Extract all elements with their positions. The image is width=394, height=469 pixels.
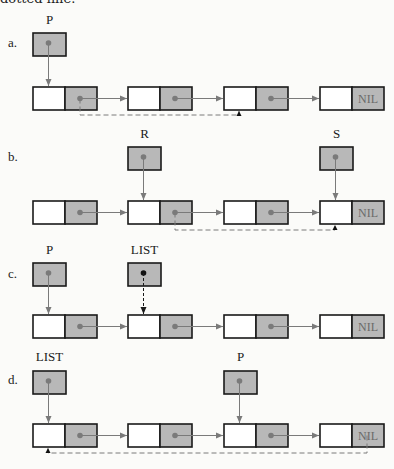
list-node [128, 424, 223, 447]
data-field [224, 315, 256, 338]
pointer-label: P [237, 349, 244, 364]
pointer-p: P [33, 242, 66, 314]
diagram-a: a.NILP [8, 12, 384, 116]
row-label: c. [8, 266, 17, 281]
pointer-label: S [333, 126, 340, 141]
list-node [33, 315, 127, 338]
pointer-label: LIST [36, 349, 64, 364]
data-field [320, 87, 352, 110]
row-label: b. [8, 149, 18, 164]
data-field [33, 424, 65, 447]
row-label: d. [8, 372, 18, 387]
data-field [128, 87, 160, 110]
diagram-c: c.NILPLIST [8, 242, 384, 338]
pointer-p: P [33, 12, 66, 86]
data-field [33, 315, 65, 338]
data-field [128, 315, 160, 338]
dashed-link-arrowhead [237, 111, 242, 116]
nil-label: NIL [358, 206, 378, 220]
list-node: NIL [320, 201, 384, 224]
list-node [224, 315, 319, 338]
data-field [320, 424, 352, 447]
list-node [224, 201, 319, 224]
pointer-label: LIST [131, 242, 159, 257]
nil-label: NIL [358, 320, 378, 334]
pointer-label: P [46, 12, 53, 27]
nil-label: NIL [358, 429, 378, 443]
data-field [128, 201, 160, 224]
list-node [224, 424, 319, 447]
nil-label: NIL [358, 92, 378, 106]
list-node [33, 424, 127, 447]
list-node: NIL [320, 87, 384, 110]
pointer-s: S [320, 126, 353, 200]
diagram-d: d.NILLISTP [8, 349, 384, 453]
pointer-r: R [128, 126, 161, 200]
data-field [128, 424, 160, 447]
list-node [224, 87, 319, 110]
list-node [33, 201, 127, 224]
pointer-list: LIST [33, 349, 66, 423]
data-field [33, 201, 65, 224]
list-node: NIL [320, 424, 384, 447]
diagram-b: b.NILRS [8, 126, 384, 230]
row-label: a. [8, 35, 17, 50]
data-field [224, 424, 256, 447]
data-field [224, 201, 256, 224]
data-field [320, 201, 352, 224]
dashed-link-arrowhead [46, 448, 51, 453]
list-node [128, 87, 223, 110]
data-field [33, 87, 65, 110]
data-field [320, 315, 352, 338]
pointer-label: R [140, 126, 149, 141]
list-node [128, 315, 223, 338]
pointer-p: P [224, 349, 257, 423]
list-node: NIL [320, 315, 384, 338]
data-field [224, 87, 256, 110]
pointer-list: LIST [128, 242, 161, 314]
linked-list-diagrams: a.NILPb.NILRSc.NILPLISTd.NILLISTP [0, 0, 394, 469]
pointer-label: P [46, 242, 53, 257]
dashed-link-arrowhead [333, 225, 338, 230]
